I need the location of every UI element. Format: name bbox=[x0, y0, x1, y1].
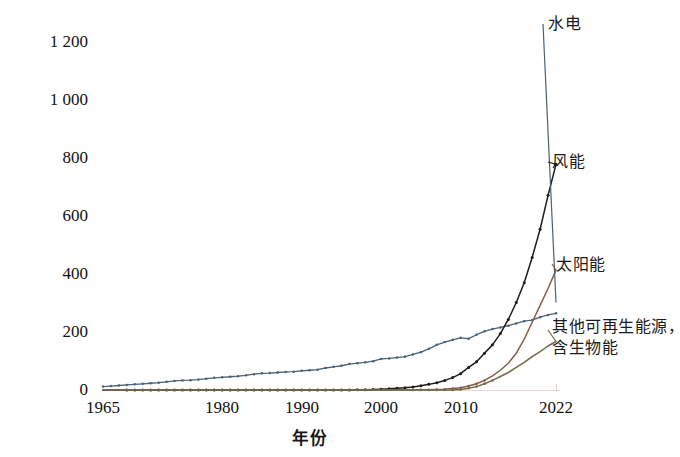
data-point bbox=[110, 385, 113, 388]
data-point bbox=[396, 356, 399, 359]
data-point bbox=[467, 366, 470, 369]
data-point bbox=[412, 389, 415, 392]
data-point bbox=[459, 372, 462, 375]
data-point bbox=[102, 385, 105, 388]
x-tick-label: 2022 bbox=[516, 398, 596, 418]
data-point bbox=[253, 373, 256, 376]
data-point bbox=[475, 333, 478, 336]
data-point bbox=[451, 389, 454, 392]
data-point bbox=[149, 382, 152, 385]
data-point bbox=[411, 385, 414, 388]
data-point bbox=[507, 318, 510, 321]
data-point bbox=[380, 358, 383, 361]
data-point bbox=[483, 352, 486, 355]
data-point bbox=[483, 383, 486, 386]
data-point bbox=[436, 344, 439, 347]
data-point bbox=[467, 385, 470, 388]
data-point bbox=[237, 375, 240, 378]
data-point bbox=[515, 301, 518, 304]
data-point bbox=[467, 387, 470, 390]
data-point bbox=[157, 381, 160, 384]
data-point bbox=[372, 360, 375, 363]
data-point bbox=[523, 281, 526, 284]
data-point bbox=[475, 360, 478, 363]
data-point bbox=[467, 337, 470, 340]
data-point bbox=[316, 368, 319, 371]
data-point bbox=[181, 379, 184, 382]
x-tick-label: 2010 bbox=[421, 398, 501, 418]
data-point bbox=[491, 343, 494, 346]
data-point bbox=[499, 332, 502, 335]
data-point bbox=[189, 379, 192, 382]
x-tick-label: 1980 bbox=[182, 398, 262, 418]
series-label-wind: 风能 bbox=[552, 152, 585, 172]
data-point bbox=[404, 386, 407, 389]
data-point bbox=[269, 372, 272, 375]
data-point bbox=[547, 194, 550, 197]
x-tick-label: 1965 bbox=[63, 398, 143, 418]
data-point bbox=[515, 322, 518, 325]
plot-area bbox=[0, 0, 680, 457]
data-point bbox=[483, 379, 486, 382]
data-point bbox=[555, 312, 558, 315]
data-point bbox=[285, 371, 288, 374]
data-point bbox=[412, 353, 415, 356]
data-point bbox=[443, 341, 446, 344]
data-point bbox=[173, 380, 176, 383]
data-point bbox=[332, 366, 335, 369]
data-point bbox=[221, 376, 224, 379]
series-line bbox=[103, 164, 556, 390]
data-point bbox=[213, 377, 216, 380]
data-point bbox=[277, 371, 280, 374]
data-point bbox=[404, 355, 407, 358]
data-point bbox=[245, 374, 248, 377]
data-point bbox=[292, 370, 295, 373]
chart-figure: 可再生能源发电量/TW·h 1 200 1 000 800 600 400 20… bbox=[0, 0, 680, 457]
data-point bbox=[419, 384, 422, 387]
data-point bbox=[348, 363, 351, 366]
data-point bbox=[388, 357, 391, 360]
data-point bbox=[420, 351, 423, 354]
data-point bbox=[141, 383, 144, 386]
data-point bbox=[134, 383, 137, 386]
data-point bbox=[547, 314, 550, 317]
x-tick-label: 2000 bbox=[341, 398, 421, 418]
data-point bbox=[435, 381, 438, 384]
data-point bbox=[364, 361, 367, 364]
data-point bbox=[475, 383, 478, 386]
data-point bbox=[261, 372, 264, 375]
series-label-hydro: 水电 bbox=[548, 14, 581, 34]
data-point bbox=[436, 389, 439, 392]
data-point bbox=[475, 385, 478, 388]
data-point bbox=[451, 339, 454, 342]
data-point bbox=[356, 362, 359, 365]
data-point bbox=[428, 348, 431, 351]
data-point bbox=[483, 330, 486, 333]
data-point bbox=[126, 384, 129, 387]
data-point bbox=[340, 364, 343, 367]
data-point bbox=[300, 370, 303, 373]
data-point bbox=[197, 378, 200, 381]
series-layer bbox=[102, 163, 558, 392]
series-0 bbox=[102, 312, 558, 388]
data-point bbox=[459, 337, 462, 340]
data-point bbox=[428, 389, 431, 392]
data-point bbox=[491, 328, 494, 331]
data-point bbox=[539, 228, 542, 231]
data-point bbox=[451, 376, 454, 379]
data-point bbox=[523, 320, 526, 323]
series-1 bbox=[103, 163, 558, 392]
data-point bbox=[118, 384, 121, 387]
data-point bbox=[205, 377, 208, 380]
data-point bbox=[308, 369, 311, 372]
data-point bbox=[443, 389, 446, 392]
data-point bbox=[420, 389, 423, 392]
x-tick-label: 1990 bbox=[262, 398, 342, 418]
data-point bbox=[324, 367, 327, 370]
data-point bbox=[459, 388, 462, 391]
data-point bbox=[427, 383, 430, 386]
data-point bbox=[539, 316, 542, 319]
data-point bbox=[499, 326, 502, 329]
series-label-other-renewables: 其他可再生能源，含生物能 bbox=[552, 316, 680, 358]
data-point bbox=[507, 324, 510, 327]
